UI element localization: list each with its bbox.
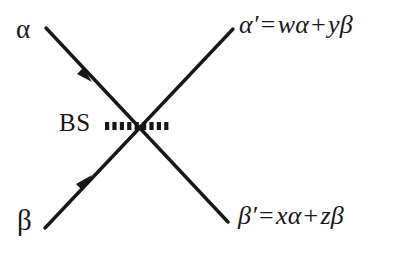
output-equation-beta-prime: β′=xα+zβ [238,203,344,229]
alpha-out-term2-coefficient: y [328,10,340,39]
input-label-beta: β [17,206,32,235]
equals-sign-alpha: = [259,10,278,39]
beta-out-term2-coefficient: z [320,201,330,230]
beta-out-term1-mode: α [288,201,302,230]
beam-splitter-figure: α β BS α′=wα+yβ β′=xα+zβ [0,0,419,254]
plus-sign-beta: + [302,201,321,230]
beta-prime-lhs: β′ [238,201,257,230]
alpha-out-term2-mode: β [340,10,353,39]
alpha-prime-lhs: α′ [239,10,259,39]
equals-sign-beta: = [257,201,276,230]
plus-sign-alpha: + [309,10,328,39]
input-label-alpha: α [16,16,30,43]
beam-splitter-label: BS [59,110,91,135]
alpha-out-term1-coefficient: w [278,10,296,39]
alpha-out-term1-mode: α [295,10,309,39]
beta-out-term1-coefficient: x [276,201,288,230]
output-equation-alpha-prime: α′=wα+yβ [239,12,353,38]
beta-out-term2-mode: β [331,201,344,230]
